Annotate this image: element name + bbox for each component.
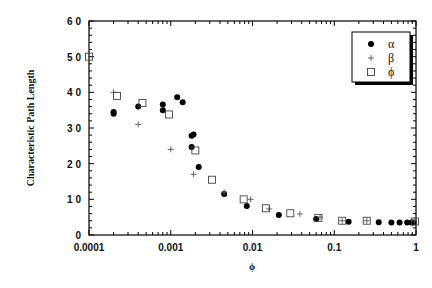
x-tick-label: 0.001 bbox=[158, 242, 183, 253]
series-plus bbox=[111, 89, 418, 223]
data-point bbox=[180, 99, 186, 105]
data-point bbox=[209, 176, 216, 183]
data-point bbox=[376, 219, 382, 225]
legend-label: α bbox=[388, 37, 395, 51]
legend-box bbox=[352, 32, 410, 82]
legend: αβϕ bbox=[352, 32, 413, 85]
data-point bbox=[339, 218, 345, 224]
data-point bbox=[111, 111, 117, 117]
data-point bbox=[287, 210, 294, 217]
y-axis-title: Characteristic Path Length bbox=[25, 69, 36, 186]
y-tick-label: 5 0 bbox=[67, 52, 81, 63]
y-tick-label: 0 bbox=[75, 230, 81, 241]
data-point bbox=[191, 171, 197, 177]
x-tick-label: 0.1 bbox=[327, 242, 341, 253]
data-point bbox=[160, 107, 166, 113]
data-point bbox=[113, 92, 120, 99]
data-point bbox=[397, 220, 403, 226]
y-tick-label: 1 0 bbox=[67, 194, 81, 205]
data-point bbox=[196, 164, 202, 170]
data-point bbox=[240, 196, 247, 203]
data-point bbox=[297, 211, 303, 217]
data-point bbox=[174, 94, 180, 100]
data-point bbox=[364, 218, 370, 224]
x-axis-title: ϕ bbox=[249, 261, 255, 272]
data-point bbox=[135, 121, 141, 127]
x-tick-label: 0.0001 bbox=[74, 242, 105, 253]
data-point bbox=[168, 146, 174, 152]
x-tick-label: 0.01 bbox=[243, 242, 263, 253]
data-point bbox=[165, 111, 172, 118]
y-tick-label: 3 0 bbox=[67, 123, 81, 134]
y-tick-label: 2 0 bbox=[67, 159, 81, 170]
x-tick-label: 1 bbox=[413, 242, 419, 253]
y-tick-label: 6 0 bbox=[67, 16, 81, 27]
data-point bbox=[248, 196, 254, 202]
data-point bbox=[346, 219, 352, 225]
legend-label: ϕ bbox=[388, 65, 394, 79]
y-tick-label: 4 0 bbox=[67, 87, 81, 98]
data-point bbox=[276, 212, 282, 218]
data-point bbox=[388, 220, 394, 226]
data-point bbox=[262, 205, 269, 212]
scatter-chart: 01 02 03 04 05 06 00.00010.0010.010.11 α… bbox=[0, 0, 432, 288]
data-point bbox=[160, 101, 166, 107]
legend-label: β bbox=[388, 51, 394, 65]
series-filled-circle bbox=[111, 94, 417, 225]
data-point bbox=[244, 203, 250, 209]
legend-marker-icon bbox=[368, 41, 374, 47]
data-point bbox=[191, 131, 197, 137]
